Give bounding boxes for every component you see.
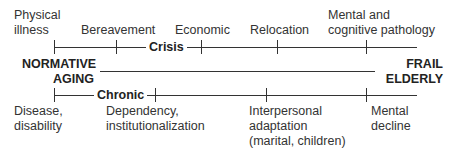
event-line: Mental — [371, 104, 411, 119]
event-line: illness — [14, 23, 61, 38]
crisis-timeline — [54, 47, 417, 48]
chronic-tick — [366, 88, 367, 102]
event-line: Dependency, — [106, 104, 205, 119]
chronic-event-mental-decline: Mental decline — [371, 104, 411, 134]
end-label-frail-elderly: FRAIL ELDERLY — [383, 57, 443, 87]
event-line: (marital, children) — [249, 134, 346, 149]
crisis-track-label: Crisis — [146, 40, 187, 54]
crisis-event-mental-cognitive-pathology: Mental and cognitive pathology — [328, 8, 435, 38]
event-line: Disease, — [14, 104, 63, 119]
crisis-event-relocation: Relocation — [250, 23, 309, 38]
start-label-normative-aging: NORMATIVE AGING — [22, 57, 94, 87]
start-label-line: AGING — [22, 72, 94, 87]
crisis-event-economic: Economic — [175, 23, 230, 38]
end-label-line: FRAIL — [383, 57, 443, 72]
event-line: adaptation — [249, 119, 346, 134]
crisis-tick — [366, 40, 367, 54]
event-line: Physical — [14, 8, 61, 23]
event-line: cognitive pathology — [328, 23, 435, 38]
event-line: institutionalization — [106, 119, 205, 134]
chronic-track-label: Chronic — [94, 88, 147, 102]
chronic-event-interpersonal-adaptation: Interpersonal adaptation (marital, child… — [249, 104, 346, 149]
event-line: disability — [14, 119, 63, 134]
event-line: Mental and — [328, 8, 435, 23]
chronic-tick — [155, 88, 156, 102]
crisis-tick — [54, 40, 55, 54]
chronic-event-disease-disability: Disease, disability — [14, 104, 63, 134]
chronic-tick — [54, 88, 55, 102]
aging-progression-line — [100, 71, 375, 72]
chronic-tick — [266, 88, 267, 102]
event-line: decline — [371, 119, 411, 134]
event-line: Interpersonal — [249, 104, 346, 119]
start-label-line: NORMATIVE — [22, 57, 94, 72]
event-line: Relocation — [250, 23, 309, 38]
chronic-event-dependency-institutionalization: Dependency, institutionalization — [106, 104, 205, 134]
crisis-event-physical-illness: Physical illness — [14, 8, 61, 38]
crisis-tick — [277, 40, 278, 54]
crisis-tick — [116, 40, 117, 54]
crisis-event-bereavement: Bereavement — [81, 23, 155, 38]
event-line: Economic — [175, 23, 230, 38]
crisis-tick — [201, 40, 202, 54]
end-label-line: ELDERLY — [383, 72, 443, 87]
event-line: Bereavement — [81, 23, 155, 38]
